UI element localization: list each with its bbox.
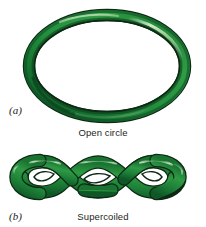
hole-center bbox=[84, 174, 110, 183]
torus-inner-shade bbox=[33, 19, 182, 114]
hole-left bbox=[34, 172, 54, 181]
hole-right bbox=[142, 172, 162, 181]
supercoil-strands bbox=[14, 160, 182, 194]
torus-inner-outline bbox=[34, 20, 179, 111]
caption-supercoiled: Supercoiled bbox=[0, 211, 206, 222]
strand-center-over bbox=[84, 190, 112, 192]
panel-open-circle: (a) Open circle bbox=[0, 0, 206, 145]
supercoiled-illustration bbox=[0, 148, 206, 206]
torus-outer-shade bbox=[25, 11, 188, 120]
panel-label-a: (a) bbox=[9, 104, 22, 116]
supercoil-holes bbox=[34, 172, 162, 183]
figure-root: (a) Open circle bbox=[0, 0, 206, 227]
crossing-2-body bbox=[84, 190, 112, 192]
open-circle-illustration bbox=[0, 0, 206, 130]
panel-supercoiled: (b) Supercoiled bbox=[0, 148, 206, 227]
caption-open-circle: Open circle bbox=[0, 127, 206, 138]
